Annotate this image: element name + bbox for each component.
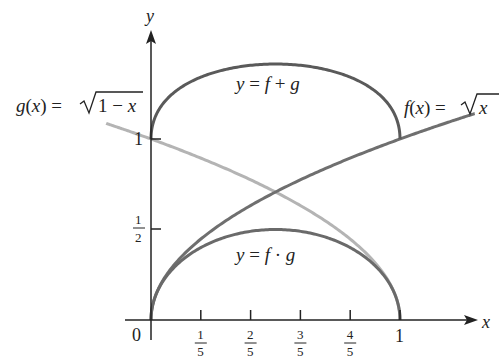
origin-label: 0: [132, 325, 141, 345]
chart-figure: 15253545 y x 0 1 1 2 1 g(x) = 1 − x f(x)…: [0, 0, 499, 363]
x-tick-label-num: 4: [347, 327, 354, 342]
x-tick-label-num: 1: [197, 327, 204, 342]
x-tick-label-den: 5: [347, 344, 354, 359]
x-tick-label-den: 5: [297, 344, 304, 359]
g-radicand: 1 − x: [98, 95, 137, 116]
x-tick-label-num: 2: [247, 327, 254, 342]
x-axis-label: x: [481, 312, 490, 332]
g-function-label: g(x) = 1 − x: [16, 92, 143, 117]
f-curve: [151, 114, 475, 320]
svg-text:g(x) =: g(x) =: [16, 95, 62, 117]
x-tick-label-den: 5: [197, 344, 204, 359]
y-tick-label-1: 1: [134, 129, 143, 149]
y-tick-label-half-den: 2: [135, 230, 142, 245]
x-tick-label-den: 5: [247, 344, 254, 359]
x-ticks: 15253545: [195, 310, 400, 359]
x-tick-label-num: 3: [297, 327, 304, 342]
plot-canvas: 15253545 y x 0 1 1 2 1 g(x) = 1 − x f(x)…: [0, 0, 499, 363]
product-label: y = f · g: [234, 244, 295, 265]
sum-label: y = f + g: [234, 73, 300, 94]
y-axis-label: y: [144, 6, 154, 26]
f-radicand: x: [478, 97, 488, 118]
svg-text:f(x) =: f(x) =: [404, 97, 446, 119]
y-tick-label-half-num: 1: [135, 212, 142, 227]
x-tick-label-1: 1: [395, 326, 404, 346]
f-function-label: f(x) = x: [404, 94, 499, 119]
